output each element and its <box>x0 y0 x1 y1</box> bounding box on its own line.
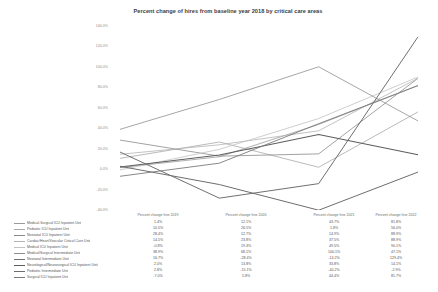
y-axis-tick: 120.0% <box>96 44 108 48</box>
table-column: Percent change hire 202012.1%26.5%12.7%2… <box>202 212 290 279</box>
y-axis-tick: 60.0% <box>98 106 108 110</box>
y-axis-tick: 20.0% <box>98 147 108 151</box>
legend-color-swatch <box>14 241 25 242</box>
chart-plot-area <box>112 26 432 210</box>
legend-color-swatch <box>14 265 25 266</box>
legend-color-swatch <box>14 247 25 248</box>
legend-color-swatch <box>14 259 25 260</box>
y-axis-tick: 100.0% <box>96 65 108 69</box>
line-series <box>120 67 418 130</box>
y-axis-tick: 140.0% <box>96 24 108 28</box>
table-column: Percent change hire 202281.8%56.0%88.9%8… <box>352 212 438 279</box>
chart-legend: Medical-Surgical ICU Inpatient UnitPedia… <box>14 220 114 280</box>
legend-color-swatch <box>14 229 25 230</box>
legend-item-label: Surgical ICU Inpatient Unit <box>27 274 68 280</box>
y-axis-tick: 80.0% <box>98 85 108 89</box>
y-axis-tick: -20.0% <box>97 188 108 192</box>
line-series <box>120 77 418 170</box>
table-cell: 81.7% <box>352 273 438 279</box>
legend-color-swatch <box>14 277 25 278</box>
table-column-header: Percent change hire 2019 <box>114 212 202 219</box>
table-cell: -7.0% <box>114 273 202 279</box>
y-axis-tick: 0.0% <box>100 167 108 171</box>
table-column-header: Percent change hire 2020 <box>202 212 290 219</box>
legend-color-swatch <box>14 235 25 236</box>
page-title: Percent change of hires from baseline ye… <box>113 8 343 15</box>
chart-plot-wrapper: 140.0%120.0%100.0%80.0%60.0%40.0%20.0%0.… <box>0 22 438 214</box>
table-column-header: Percent change hire 2022 <box>352 212 438 219</box>
legend-item[interactable]: Surgical ICU Inpatient Unit <box>14 274 114 280</box>
y-axis: 140.0%120.0%100.0%80.0%60.0%40.0%20.0%0.… <box>86 22 110 214</box>
legend-color-swatch <box>14 253 25 254</box>
table-cell: 5.8% <box>202 273 290 279</box>
table-column: Percent change hire 20191.4%10.5%28.4%14… <box>114 212 202 279</box>
line-series <box>120 112 418 167</box>
y-axis-tick: 40.0% <box>98 126 108 130</box>
legend-color-swatch <box>14 223 25 224</box>
line-series <box>120 37 418 198</box>
line-series-group <box>112 26 432 210</box>
legend-color-swatch <box>14 271 25 272</box>
data-table: Medical-Surgical ICU Inpatient UnitPedia… <box>0 212 438 292</box>
